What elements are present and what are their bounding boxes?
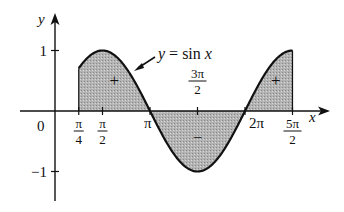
x-tick-numerator: π <box>99 116 106 131</box>
x-tick-denominator: 2 <box>99 132 106 147</box>
x-tick-numerator: 5π <box>286 116 300 131</box>
y-tick-label: 1 <box>40 43 48 59</box>
x-tick-fraction-label: π4 <box>74 116 84 147</box>
y-tick-label: −1 <box>31 164 47 180</box>
x-tick-fraction-label: 5π2 <box>284 116 302 147</box>
x-axis-label: x <box>308 109 316 125</box>
origin-label: 0 <box>37 118 45 134</box>
x-tick-denominator: 4 <box>76 132 83 147</box>
x-tick-denominator: 2 <box>194 82 201 97</box>
y-axis-label: y <box>36 11 45 27</box>
function-label-text: y = sin x <box>156 45 212 63</box>
region-sign-label: + <box>271 71 281 90</box>
x-tick-numerator: 3π <box>191 66 205 81</box>
region-sign-label: − <box>193 128 203 147</box>
region-sign-label: + <box>109 71 119 90</box>
x-tick-fraction-label: 3π2 <box>189 66 207 97</box>
x-tick-label: π <box>144 115 152 131</box>
x-tick-denominator: 2 <box>289 132 296 147</box>
x-tick-numerator: π <box>75 116 82 131</box>
sine-area-chart: π4π2π3π22π5π21−1+−+ y x 0 y = sin x <box>0 0 344 212</box>
x-tick-fraction-label: π2 <box>98 116 108 147</box>
x-tick-label: 2π <box>249 115 264 131</box>
